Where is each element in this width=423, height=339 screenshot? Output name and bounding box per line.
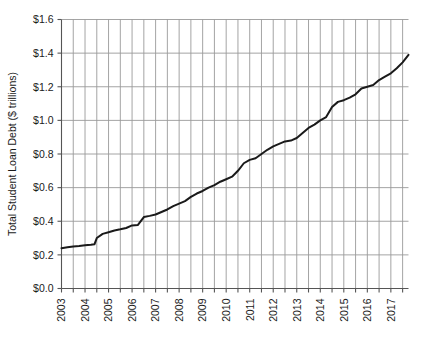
x-axis-tick-label: 2006 bbox=[126, 298, 138, 322]
y-axis-tick-label: $1.4 bbox=[33, 47, 54, 59]
x-axis-tick-label: 2011 bbox=[244, 298, 256, 321]
x-axis-tick-label: 2010 bbox=[220, 298, 232, 322]
x-axis-tick-label: 2012 bbox=[267, 298, 279, 322]
x-axis-tick-label: 2013 bbox=[291, 298, 303, 322]
x-axis-tick-label: 2007 bbox=[149, 298, 161, 322]
y-axis-tick-label: $0.6 bbox=[33, 181, 54, 193]
x-axis-tick-label: 2008 bbox=[173, 298, 185, 322]
y-axis-tick-label: $0.4 bbox=[33, 215, 54, 227]
y-axis-title-text: Total Student Loan Debt ($ trillions) bbox=[6, 72, 18, 236]
student-loan-debt-chart: $0.0$0.2$0.4$0.6$0.8$1.0$1.2$1.4$1.6 200… bbox=[0, 0, 423, 339]
y-axis-tick-label: $0.8 bbox=[33, 148, 54, 160]
x-axis-tick-label: 2014 bbox=[314, 298, 326, 322]
y-axis-tick-label: $1.0 bbox=[33, 114, 54, 126]
y-axis-tick-label: $0.0 bbox=[33, 282, 54, 294]
y-axis-title: Total Student Loan Debt ($ trillions) bbox=[6, 72, 18, 236]
y-axis-tick-label: $1.6 bbox=[33, 13, 54, 25]
x-axis-tick-label: 2015 bbox=[338, 298, 350, 322]
chart-canvas: $0.0$0.2$0.4$0.6$0.8$1.0$1.2$1.4$1.6 200… bbox=[0, 0, 423, 339]
x-tick-labels: 2003200420052006200720082009201020112012… bbox=[55, 298, 396, 322]
y-axis-tick-label: $0.2 bbox=[33, 249, 54, 261]
y-axis-tick-label: $1.2 bbox=[33, 81, 54, 93]
x-axis-tick-label: 2004 bbox=[79, 298, 91, 322]
y-tick-labels: $0.0$0.2$0.4$0.6$0.8$1.0$1.2$1.4$1.6 bbox=[33, 13, 54, 294]
x-axis-tick-label: 2003 bbox=[55, 298, 67, 322]
x-axis-tick-label: 2005 bbox=[102, 298, 114, 322]
x-axis-tick-label: 2016 bbox=[361, 298, 373, 322]
x-axis-tick-label: 2009 bbox=[196, 298, 208, 322]
x-axis-tick-label: 2017 bbox=[385, 298, 397, 322]
